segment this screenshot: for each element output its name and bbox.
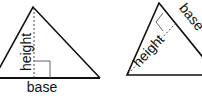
triangle-diagram: height base height base xyxy=(0,0,202,99)
rotated-triangle: height base xyxy=(127,0,202,75)
height-label: height xyxy=(129,31,167,70)
right-angle-marker xyxy=(34,61,50,78)
base-label: base xyxy=(27,79,58,95)
upright-triangle: height base xyxy=(0,7,100,95)
height-label: height xyxy=(18,33,34,71)
right-angle-marker xyxy=(156,13,163,31)
